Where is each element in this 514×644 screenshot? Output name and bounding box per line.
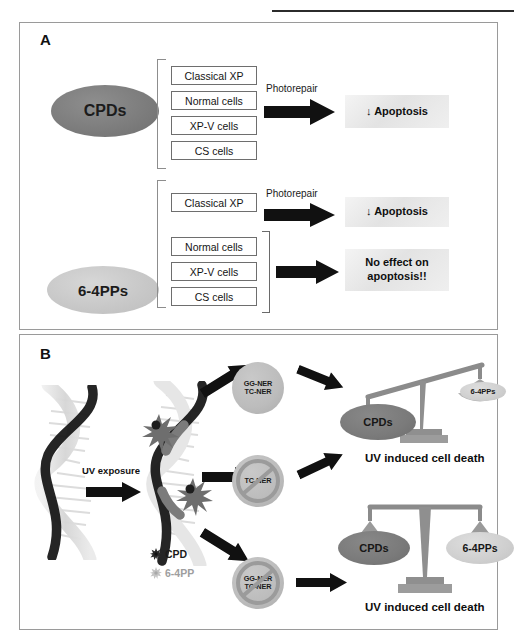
dark-burst-icon (150, 548, 162, 560)
outcome-arrow-icon-2 (294, 445, 347, 483)
right-block-arrow-icon-row3 (276, 260, 340, 284)
cpds-ellipse: CPDs (51, 85, 159, 137)
uv-exposure-arrow-icon (86, 482, 142, 502)
row1-group-bracket (157, 59, 166, 169)
cell-box-cs-cells: CS cells (171, 141, 257, 160)
balance1-left-pan-cpds: CPDs (340, 404, 416, 440)
cell-box-xpv-cells-2: XP-V cells (171, 262, 257, 281)
ner-circle-branch-2: TC-NER (232, 455, 284, 507)
outcome-box-row2-top: ↓ Apoptosis (345, 197, 449, 227)
six-four-pps-ellipse: 6-4PPs (47, 266, 159, 314)
outcome-box-row1: ↓ Apoptosis (345, 95, 449, 128)
photorepair-label-row2: Photorepair (266, 188, 318, 199)
light-burst-icon (150, 567, 162, 579)
uv-exposure-label: UV exposure (82, 465, 140, 476)
outcome-line-2: apoptosis!! (367, 270, 426, 284)
cell-box-xpv-cells: XP-V cells (171, 116, 257, 135)
ner-circle-branch-1: GG-NER TC-NER (232, 362, 284, 414)
panel-b-letter: B (40, 345, 51, 362)
panel-a: A CPDs Classical XP Normal cells XP-V ce… (19, 22, 498, 330)
balance2-caption: UV induced cell death (365, 601, 485, 613)
balance1-right-pan-6-4pps: 6-4PPs (460, 382, 506, 401)
legend-label-6-4pp: 6-4PP (165, 567, 194, 579)
balance2-left-pan-cpds: CPDs (338, 531, 410, 565)
legend-item-cpd: CPD (150, 548, 187, 560)
balance-scale-tilted: CPDs 6-4PPs (354, 357, 496, 457)
outcome-line-1: No effect on (365, 256, 429, 270)
right-block-arrow-icon-row2 (264, 203, 336, 227)
panel-b: B (19, 334, 498, 630)
prohibited-icon-3 (232, 557, 284, 609)
cell-box-classical-xp: Classical XP (171, 66, 257, 85)
cell-box-cs-cells-2: CS cells (171, 287, 257, 306)
balance-scale-level: CPDs 6-4PPs (354, 495, 496, 603)
outcome-arrow-icon-3 (296, 573, 348, 592)
figure-root: A CPDs Classical XP Normal cells XP-V ce… (0, 0, 514, 644)
balance1-caption: UV induced cell death (365, 452, 485, 464)
row2-subgroup-closing-bracket (262, 231, 270, 313)
photorepair-label-row1: Photorepair (266, 83, 318, 94)
cell-box-classical-xp-2: Classical XP (171, 193, 257, 212)
balance2-right-pan-6-4pps: 6-4PPs (446, 532, 514, 564)
legend-label-cpd: CPD (165, 548, 187, 560)
header-rule (272, 10, 514, 12)
prohibited-icon-2 (232, 455, 284, 507)
outcome-box-row2-bottom: No effect on apoptosis!! (345, 249, 449, 291)
outcome-arrow-icon-1 (294, 360, 347, 396)
legend-item-6-4pp: 6-4PP (150, 567, 194, 579)
ner-label-1b: TC-NER (245, 388, 272, 396)
panel-a-letter: A (40, 31, 51, 48)
right-block-arrow-icon-row1 (264, 99, 336, 125)
cell-box-normal-cells-2: Normal cells (171, 237, 257, 256)
row2-group-bracket (157, 180, 166, 308)
cell-box-normal-cells: Normal cells (171, 91, 257, 110)
ner-circle-branch-3: GG-NER TC-NER (232, 557, 284, 609)
